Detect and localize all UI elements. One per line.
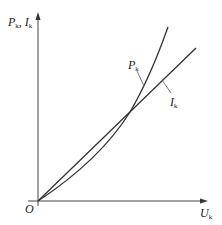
y-axis-label: Pk, Ik bbox=[7, 15, 33, 30]
x-axis-label: Uk bbox=[200, 206, 213, 221]
origin-label: O bbox=[25, 202, 34, 216]
pk-label: Pk bbox=[127, 58, 139, 73]
x-axis-arrow-icon bbox=[200, 199, 208, 204]
ik-leader-line bbox=[162, 80, 171, 93]
y-axis-arrow-icon bbox=[36, 12, 41, 20]
curve-ik bbox=[38, 48, 196, 201]
diagram-canvas: Pk, Ik Uk O Pk Ik bbox=[0, 0, 222, 225]
curve-pk bbox=[38, 27, 168, 201]
pk-leader-line bbox=[137, 71, 144, 86]
ik-label: Ik bbox=[169, 95, 178, 110]
